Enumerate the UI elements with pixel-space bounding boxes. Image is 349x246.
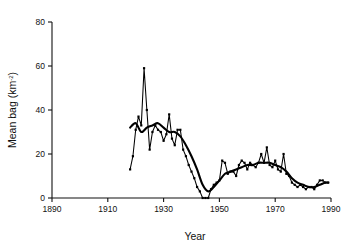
- x-axis-title: Year: [184, 230, 206, 242]
- data-point-marker: [146, 109, 148, 111]
- x-tick-label: 1930: [154, 204, 173, 214]
- y-axis-title-tail: ): [6, 72, 18, 76]
- data-point-marker: [224, 162, 226, 164]
- chart-figure: 020406080 189019101930195019701990 Year …: [0, 0, 349, 246]
- data-point-marker: [160, 131, 162, 133]
- data-point-marker: [282, 153, 284, 155]
- data-point-marker: [132, 155, 134, 157]
- data-point-marker: [151, 131, 153, 133]
- data-point-marker: [196, 186, 198, 188]
- data-point-marker: [171, 138, 173, 140]
- data-point-marker: [221, 160, 223, 162]
- data-point-marker: [135, 129, 137, 131]
- data-point-marker: [202, 197, 204, 199]
- data-point-marker: [176, 129, 178, 131]
- data-point-marker: [238, 164, 240, 166]
- x-tick-label: 1910: [98, 204, 117, 214]
- x-tick-label: 1990: [322, 204, 341, 214]
- svg-text:Mean bag (km-2): Mean bag (km-2): [6, 72, 18, 148]
- y-tick-label: 20: [36, 149, 46, 159]
- data-point-marker: [137, 116, 139, 118]
- y-axis-title-base: Mean bag (km: [6, 81, 18, 148]
- x-tick-label: 1950: [210, 204, 229, 214]
- data-point-marker: [296, 186, 298, 188]
- data-point-marker: [188, 164, 190, 166]
- data-point-marker: [199, 190, 201, 192]
- y-tick-label: 80: [36, 17, 46, 27]
- data-point-marker: [204, 197, 206, 199]
- data-point-marker: [319, 179, 321, 181]
- data-point-marker: [165, 133, 167, 135]
- data-point-marker: [143, 67, 145, 69]
- y-axis-title: Mean bag (km-2): [6, 72, 18, 148]
- y-tick-label: 0: [40, 193, 45, 203]
- data-point-marker: [185, 155, 187, 157]
- data-point-marker: [269, 164, 271, 166]
- data-point-marker: [249, 162, 251, 164]
- data-point-marker: [255, 166, 257, 168]
- data-point-marker: [157, 129, 159, 131]
- data-point-marker: [271, 166, 273, 168]
- data-point-marker: [277, 168, 279, 170]
- mean-bag-line-chart: 020406080 189019101930195019701990 Year …: [0, 0, 349, 246]
- data-point-marker: [207, 197, 209, 199]
- data-point-marker: [241, 160, 243, 162]
- data-point-marker: [235, 175, 237, 177]
- data-point-marker: [140, 124, 142, 126]
- data-point-marker: [182, 149, 184, 151]
- x-tick-label: 1970: [266, 204, 285, 214]
- data-point-marker: [274, 160, 276, 162]
- data-point-marker: [294, 184, 296, 186]
- data-point-marker: [243, 162, 245, 164]
- data-point-marker: [193, 177, 195, 179]
- data-point-marker: [266, 146, 268, 148]
- data-point-marker: [305, 188, 307, 190]
- data-point-marker: [246, 168, 248, 170]
- data-point-marker: [179, 129, 181, 131]
- data-point-marker: [280, 171, 282, 173]
- data-point-marker: [190, 171, 192, 173]
- data-point-marker: [129, 168, 131, 170]
- data-point-marker: [291, 182, 293, 184]
- data-point-marker: [163, 140, 165, 142]
- data-point-marker: [322, 179, 324, 181]
- data-point-marker: [174, 144, 176, 146]
- data-point-marker: [313, 188, 315, 190]
- data-point-marker: [260, 153, 262, 155]
- y-tick-label: 60: [36, 61, 46, 71]
- y-tick-label: 40: [36, 105, 46, 115]
- data-point-marker: [149, 149, 151, 151]
- x-tick-label: 1890: [43, 204, 62, 214]
- data-point-marker: [168, 113, 170, 115]
